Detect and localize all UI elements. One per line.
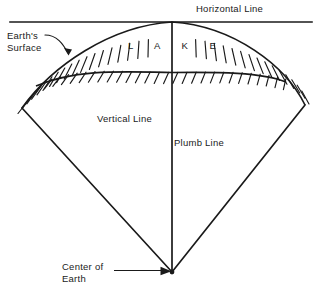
horizontal-line-label: Horizontal Line — [196, 3, 263, 15]
earths-surface-label-line2: Surface — [7, 42, 42, 53]
leader-arrow-icon — [64, 48, 72, 56]
plumb-line-label: Plumb Line — [174, 137, 224, 149]
hatch-marks-icon — [36, 71, 169, 92]
leader-line-icon — [45, 35, 68, 53]
leader-arrow-icon — [161, 267, 172, 275]
center-of-earth-label-line1: Center of — [62, 261, 103, 272]
center-of-earth-label-line2: Earth — [62, 273, 86, 284]
right-radius-line — [172, 105, 305, 272]
earth-curvature-diagram: Horizontal Line Earth'sSurface L A K E V… — [0, 0, 322, 296]
earths-surface-label-line1: Earth's — [7, 30, 38, 41]
center-of-earth-label: Center ofEarth — [62, 261, 103, 284]
vertical-line-label: Vertical Line — [97, 113, 152, 125]
lake-label: L A K E — [128, 40, 225, 52]
center-of-earth-point — [170, 270, 175, 275]
earths-surface-arc — [22, 22, 305, 108]
earths-surface-label: Earth'sSurface — [7, 30, 42, 53]
hatch-marks-icon — [173, 72, 286, 90]
left-radius-line — [22, 108, 172, 272]
